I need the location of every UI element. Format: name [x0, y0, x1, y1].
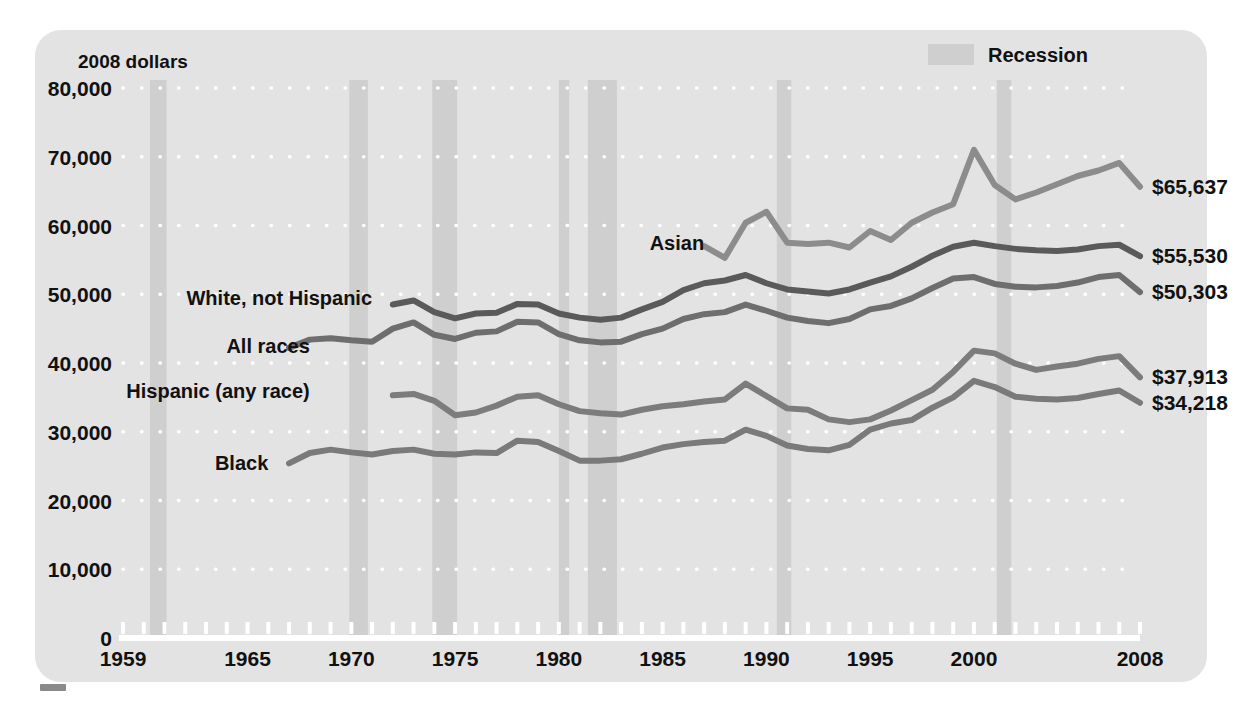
- series-annotation-label: White, not Hispanic: [186, 287, 372, 309]
- recession-band: [588, 80, 617, 638]
- series-lines-group: [289, 150, 1140, 464]
- x-axis-tick-label: 1959: [100, 647, 147, 670]
- y-axis-tick-label: 40,000: [48, 352, 112, 375]
- x-axis-tick-label: 1980: [535, 647, 582, 670]
- recession-band: [349, 80, 368, 638]
- y-axis-tick-label: 10,000: [48, 558, 112, 581]
- x-axis-tick-label: 1995: [847, 647, 894, 670]
- x-axis-ticks-group: [123, 622, 1140, 634]
- end-value-label: $65,637: [1152, 175, 1228, 198]
- series-line: [393, 351, 1140, 423]
- y-axis-labels-group: 010,00020,00030,00040,00050,00060,00070,…: [48, 77, 112, 650]
- series-line: [289, 275, 1140, 348]
- recession-bands-group: [150, 80, 1011, 638]
- gridlines-group: [123, 88, 1140, 569]
- x-axis-tick-label: 1975: [432, 647, 479, 670]
- unit-label: 2008 dollars: [78, 51, 188, 72]
- series-annotations-group: AsianWhite, not HispanicAll racesHispani…: [126, 232, 704, 474]
- x-axis-tick-label: 2008: [1117, 647, 1164, 670]
- series-line: [704, 150, 1140, 258]
- y-axis-tick-label: 50,000: [48, 283, 112, 306]
- line-chart: 010,00020,00030,00040,00050,00060,00070,…: [0, 0, 1240, 706]
- series-annotation-label: All races: [226, 335, 309, 357]
- x-axis-tick-label: 1985: [639, 647, 686, 670]
- series-annotation-label: Hispanic (any race): [126, 380, 309, 402]
- series-annotation-label: Black: [215, 452, 269, 474]
- y-axis-tick-label: 30,000: [48, 421, 112, 444]
- recession-legend-label: Recession: [988, 44, 1088, 66]
- x-axis-tick-label: 1990: [743, 647, 790, 670]
- x-axis-tick-label: 2000: [951, 647, 998, 670]
- recession-band: [432, 80, 457, 638]
- end-value-label: $34,218: [1152, 391, 1228, 414]
- recession-legend-swatch: [928, 44, 974, 65]
- recession-band: [559, 80, 569, 638]
- end-value-labels-group: $65,637$55,530$50,303$37,913$34,218: [1152, 175, 1228, 414]
- figure-root: 010,00020,00030,00040,00050,00060,00070,…: [0, 0, 1240, 706]
- x-axis-tick-label: 1965: [224, 647, 271, 670]
- y-axis-tick-label: 60,000: [48, 215, 112, 238]
- y-axis-tick-label: 70,000: [48, 146, 112, 169]
- series-annotation-label: Asian: [650, 232, 704, 254]
- end-value-label: $50,303: [1152, 280, 1228, 303]
- end-value-label: $55,530: [1152, 244, 1228, 267]
- end-value-label: $37,913: [1152, 365, 1228, 388]
- y-axis-tick-label: 80,000: [48, 77, 112, 100]
- x-axis-tick-label: 1970: [328, 647, 375, 670]
- recession-band: [150, 80, 167, 638]
- y-axis-tick-label: 20,000: [48, 490, 112, 513]
- recession-band: [777, 80, 792, 638]
- x-axis-labels-group: 1959196519701975198019851990199520002008: [100, 647, 1164, 670]
